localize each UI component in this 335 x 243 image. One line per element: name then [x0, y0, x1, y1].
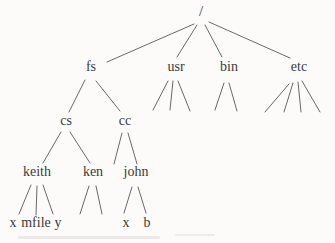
edge-john-x	[124, 187, 132, 213]
edge-keith-x	[19, 185, 31, 214]
node-root: /	[199, 4, 203, 19]
node-keith-mfile: mfile	[21, 216, 51, 230]
node-cc: cc	[119, 114, 131, 128]
node-bin: bin	[220, 60, 238, 74]
node-keith-y: y	[55, 216, 62, 230]
edge-keith-y	[43, 185, 53, 214]
edge-etc-child-4	[302, 81, 320, 112]
scan-smudge	[18, 236, 160, 239]
edge-etc-child-3	[298, 82, 301, 112]
edge-keith-mfile	[36, 186, 37, 215]
tree-edges	[0, 0, 335, 243]
node-keith: keith	[23, 165, 51, 179]
edge-bin-child-2	[229, 83, 237, 111]
filesystem-tree-figure: / fs usr bin etc cs cc keith ken john x …	[0, 0, 335, 243]
edge-root-fs	[107, 24, 194, 62]
node-john-x: x	[123, 216, 130, 230]
scan-smudge-2	[175, 234, 215, 236]
edge-etc-child-2	[284, 83, 293, 112]
edge-root-bin	[205, 25, 222, 57]
node-ken: ken	[83, 165, 103, 179]
edge-cc-child-1	[114, 133, 122, 164]
edge-fs-cc	[96, 81, 120, 111]
node-cs: cs	[60, 114, 72, 128]
node-john-b: b	[144, 216, 151, 230]
edge-root-etc	[209, 22, 290, 58]
node-john: john	[124, 165, 149, 179]
edge-bin-child-1	[215, 83, 224, 110]
node-keith-x: x	[10, 216, 17, 230]
edge-usr-child-2	[170, 81, 173, 110]
edge-john-b	[138, 187, 146, 213]
edge-ken-child-2	[96, 186, 102, 214]
node-usr: usr	[167, 60, 184, 74]
edge-cs-keith	[43, 132, 61, 163]
edge-cs-ken	[70, 132, 90, 163]
edge-fs-cs	[69, 80, 85, 112]
edge-usr-child-3	[178, 81, 190, 111]
edge-cc-john	[128, 133, 137, 164]
edge-usr-child-1	[153, 81, 168, 110]
edge-ken-child-1	[80, 186, 89, 214]
node-fs: fs	[86, 60, 96, 74]
node-etc: etc	[291, 60, 307, 74]
